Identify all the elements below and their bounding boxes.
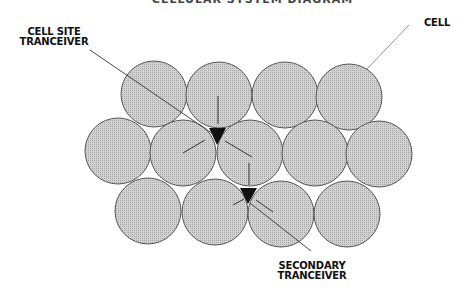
cell-label-text: CELL — [420, 18, 454, 29]
cell-middle-3 — [217, 120, 283, 186]
cell-top-4 — [316, 64, 382, 130]
cell-middle-5 — [346, 121, 412, 187]
cell-bottom-2 — [182, 179, 248, 245]
cell-bottom-3 — [248, 181, 314, 247]
cell-bottom-4 — [314, 181, 380, 247]
cell-top-2 — [186, 62, 252, 128]
secondary-label-line2: TRANCEIVER — [271, 271, 353, 282]
cell-site-label-line2: TRANCEIVER — [14, 37, 94, 48]
cell-middle-1 — [85, 118, 151, 184]
cell-label: CELL — [420, 18, 454, 29]
cell-bottom-1 — [115, 178, 181, 244]
cell-top-3 — [252, 62, 318, 128]
cell-grid — [85, 61, 412, 247]
secondary-tranceiver-label: SECONDARY TRANCEIVER — [271, 261, 353, 282]
cell-leader-line — [366, 25, 409, 70]
cell-site-label: CELL SITE TRANCEIVER — [14, 27, 94, 48]
cell-middle-4 — [282, 120, 348, 186]
